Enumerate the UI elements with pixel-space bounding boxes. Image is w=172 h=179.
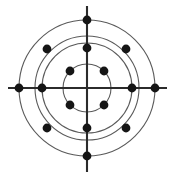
data-point-p10 [43,45,52,54]
data-point-p7 [38,84,47,93]
data-point-p11 [43,124,52,133]
data-point-p2 [66,67,75,76]
data-point-p3 [66,101,75,110]
data-point-p14 [83,16,92,25]
data-point-p13 [151,84,160,93]
data-point-p6 [83,44,92,53]
data-point-p12 [122,124,131,133]
figure-root [0,0,172,179]
data-point-p8 [83,124,92,133]
concentric-circle-diagram [0,0,172,179]
data-point-p16 [83,152,92,161]
data-point-p4 [100,101,109,110]
data-point-p9 [122,45,131,54]
data-point-p15 [15,84,24,93]
data-point-p5 [128,84,137,93]
data-point-p1 [100,67,109,76]
